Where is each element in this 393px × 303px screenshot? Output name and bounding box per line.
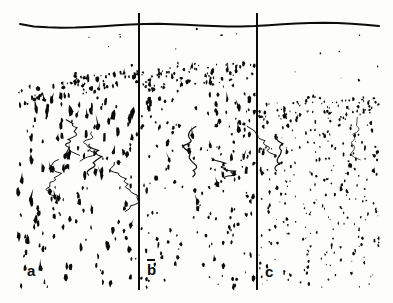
figure-background xyxy=(0,0,393,303)
histology-figure: a b c xyxy=(0,0,393,303)
micrograph-image xyxy=(0,0,393,303)
panel-label-a: a xyxy=(27,263,35,278)
panel-label-c: c xyxy=(265,264,273,279)
panel-label-b: b xyxy=(147,262,156,277)
